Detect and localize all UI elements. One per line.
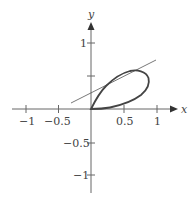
x-axis-arrow-icon bbox=[170, 106, 178, 113]
y-tick-label: 1 bbox=[80, 37, 87, 50]
loop-curve bbox=[91, 70, 149, 109]
y-axis-arrow-icon bbox=[88, 22, 95, 30]
tangent-line bbox=[71, 60, 156, 103]
x-tick-label: 1 bbox=[154, 115, 161, 128]
y-tick-label: −0.5 bbox=[63, 137, 90, 150]
x-tick-label: −0.5 bbox=[44, 115, 71, 128]
x-tick-label: −1 bbox=[19, 115, 35, 128]
y-axis-label: y bbox=[87, 8, 95, 21]
plot: x y −1 −0.5 0.5 1 1 −0.5 −1 bbox=[0, 0, 190, 198]
x-axis-label: x bbox=[181, 103, 188, 116]
x-tick-label: 0.5 bbox=[116, 115, 134, 128]
y-tick-label: −1 bbox=[73, 169, 89, 182]
